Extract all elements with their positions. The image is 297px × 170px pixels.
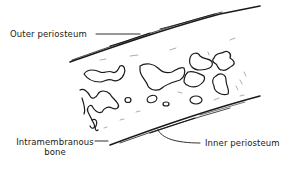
inner-periosteum-label: Inner periosteum: [205, 138, 280, 148]
bone-trabeculae: [80, 51, 234, 130]
bone-diagram: Outer periosteum Intramembranous bone In…: [0, 0, 297, 170]
outer-periosteum-label: Outer periosteum: [10, 29, 87, 39]
intramembranous-bone-label-line2: bone: [11, 147, 99, 157]
intramembranous-bone-label: Intramembranous bone: [11, 137, 99, 157]
inner-periosteum-leader: [158, 130, 200, 143]
intramembranous-bone-label-line1: Intramembranous: [11, 137, 99, 147]
